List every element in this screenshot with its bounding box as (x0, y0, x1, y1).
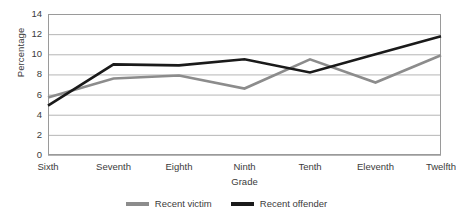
legend-label: Recent victim (155, 198, 212, 209)
y-tick-label: 12 (14, 29, 42, 39)
plot-background (48, 14, 441, 155)
x-tick-label-eighth: Eighth (166, 161, 193, 172)
x-tick-label-eleventh: Eleventh (357, 161, 394, 172)
legend-item-recent-offender[interactable]: Recent offender (231, 198, 327, 209)
y-tick-label: 4 (14, 110, 42, 120)
chart-legend: Recent victimRecent offender (0, 198, 453, 209)
y-tick-label: 10 (14, 49, 42, 59)
legend-swatch-icon (231, 202, 254, 206)
x-tick-label-tenth: Tenth (298, 161, 321, 172)
legend-swatch-icon (126, 202, 149, 206)
x-axis-title: Grade (48, 176, 441, 187)
y-tick-label: 6 (14, 90, 42, 100)
y-tick-label: 8 (14, 69, 42, 79)
legend-label: Recent offender (260, 198, 327, 209)
y-tick-label: 14 (14, 9, 42, 19)
x-tick-label-ninth: Ninth (233, 161, 255, 172)
x-tick-label-twelfth: Twelfth (426, 161, 456, 172)
legend-item-recent-victim[interactable]: Recent victim (126, 198, 212, 209)
x-tick-label-sixth: Sixth (37, 161, 58, 172)
y-tick-label: 2 (14, 130, 42, 140)
y-tick-label: 0 (14, 150, 42, 160)
x-tick-label-seventh: Seventh (96, 161, 131, 172)
